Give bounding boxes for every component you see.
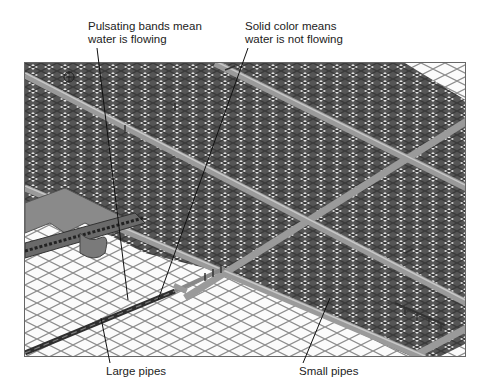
- game-screen: [24, 62, 466, 357]
- isometric-pipe-map: [25, 63, 466, 357]
- callout-solid-line2: water is not flowing: [245, 33, 343, 46]
- callout-solid-line1: Solid color means: [245, 20, 343, 33]
- callout-large-pipes: Large pipes: [106, 365, 166, 378]
- callout-pulsating-line2: water is flowing: [88, 33, 202, 46]
- callout-solid-color: Solid color means water is not flowing: [245, 20, 343, 46]
- callout-pulsating-bands: Pulsating bands mean water is flowing: [88, 20, 202, 46]
- callout-small-pipes: Small pipes: [299, 365, 358, 378]
- callout-pulsating-line1: Pulsating bands mean: [88, 20, 202, 33]
